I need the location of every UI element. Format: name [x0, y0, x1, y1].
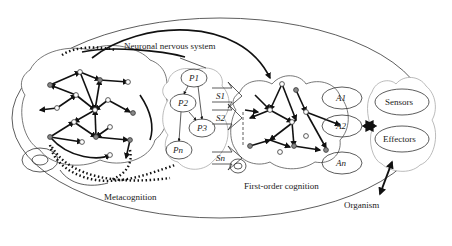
- process-label-p1: P1: [188, 73, 199, 83]
- organism-label: Organism: [344, 200, 379, 210]
- effectors-label: Effectors: [383, 134, 416, 144]
- process-label-pn: Pn: [172, 145, 183, 155]
- action-label-a1: A1: [335, 93, 346, 103]
- action-label-a2: A2: [335, 121, 346, 131]
- signal-label-s1: S1: [216, 91, 225, 101]
- action-label-an: An: [335, 158, 346, 168]
- diagram-canvas: P1 P2 P3 Pn S1 S2 Sn: [0, 0, 452, 246]
- process-label-p3: P3: [196, 123, 207, 133]
- signal-label-sn: Sn: [216, 153, 226, 163]
- leader-neuronal: [180, 58, 206, 68]
- signal-label-s2: S2: [216, 113, 226, 123]
- metacognition-label: Metacognition: [104, 192, 157, 202]
- cognition-diagram: P1 P2 P3 Pn S1 S2 Sn: [0, 0, 452, 246]
- neuronal-nervous-system-label: Neuronal nervous system: [124, 41, 215, 51]
- process-label-p2: P2: [177, 98, 188, 108]
- sensors-label: Sensors: [385, 97, 413, 107]
- interface-cloud: [368, 77, 436, 171]
- first-order-cognition-label: First-order cognition: [244, 181, 319, 191]
